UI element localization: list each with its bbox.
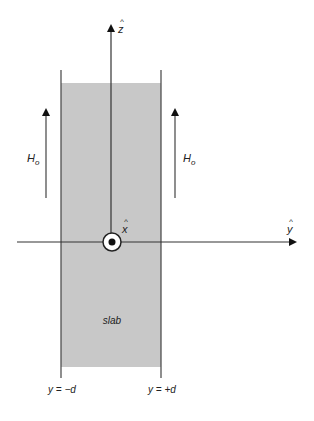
svg-text:^: ^ xyxy=(124,217,128,226)
svg-text:o: o xyxy=(191,158,196,167)
svg-text:^: ^ xyxy=(289,217,293,226)
left-boundary-label: y = −d xyxy=(47,384,76,395)
slab-diagram: z ^ x ^ y ^ H o H o slab y = −d y = +d xyxy=(0,0,314,421)
svg-text:^: ^ xyxy=(120,17,124,26)
svg-text:H: H xyxy=(183,152,191,164)
x-axis-out-of-page-icon xyxy=(103,233,121,251)
right-boundary-label: y = +d xyxy=(147,384,176,395)
svg-text:H: H xyxy=(27,152,35,164)
y-axis-label: y ^ xyxy=(286,217,294,235)
field-label-left: H o xyxy=(27,152,40,167)
field-label-right: H o xyxy=(183,152,196,167)
svg-text:o: o xyxy=(35,158,40,167)
z-axis-label: z ^ xyxy=(117,17,124,35)
slab-label: slab xyxy=(103,315,122,326)
